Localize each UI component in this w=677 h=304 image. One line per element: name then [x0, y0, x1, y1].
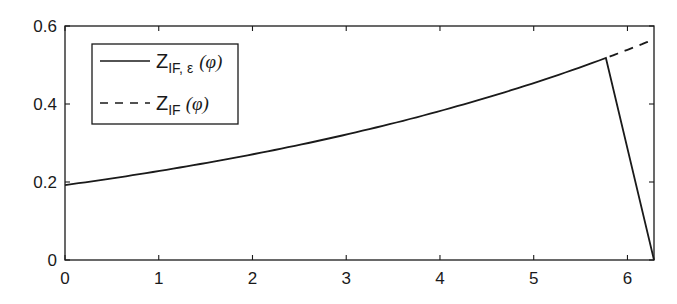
y-tick-label: 0.2: [33, 173, 57, 192]
x-tick-label: 5: [529, 269, 538, 288]
x-tick-label: 6: [623, 269, 632, 288]
y-tick-label: 0.6: [33, 17, 57, 36]
x-tick-label: 0: [60, 269, 69, 288]
chart: 012345600.20.40.6 ZIF, ε(φ) ZIF(φ): [0, 0, 677, 304]
y-tick-label: 0: [48, 251, 57, 270]
x-tick-label: 2: [248, 269, 257, 288]
x-tick-label: 1: [154, 269, 163, 288]
y-tick-label: 0.4: [33, 95, 57, 114]
legend: ZIF, ε(φ) ZIF(φ): [92, 44, 238, 124]
series-z-if-dashed-line: [606, 39, 654, 58]
x-tick-label: 4: [435, 269, 444, 288]
x-tick-label: 3: [341, 269, 350, 288]
